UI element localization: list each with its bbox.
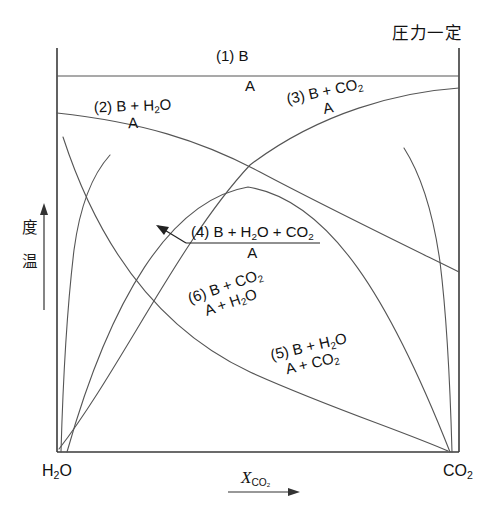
- x-axis-left-endpoint-label: H2O: [42, 462, 72, 480]
- phase-diagram-figure: 圧力一定 (1) B A (2) B + H2O A (3) B + CO2 A…: [0, 0, 500, 517]
- x-axis-variable-label: XCO2: [241, 468, 270, 487]
- region-2-number: (2): [93, 98, 112, 116]
- region-3-number: (3): [285, 87, 306, 107]
- region-1-number: (1): [216, 47, 234, 64]
- region-2-bottom: A: [92, 113, 174, 133]
- region-label-4: (4) B + H2O + CO2 A: [189, 224, 316, 262]
- x-axis-arrowhead: [288, 488, 300, 496]
- region-label-2: (2) B + H2O A: [91, 97, 174, 133]
- region-4-top: (4) B + H2O + CO2: [189, 224, 316, 241]
- region-1-top-phase: B: [239, 47, 249, 64]
- region-label-1-bottom: A: [245, 78, 255, 95]
- region-4-number: (4): [191, 223, 209, 240]
- chart-title: 圧力一定: [392, 24, 462, 42]
- y-axis-label-char-1: 度: [20, 215, 40, 237]
- y-axis-label-char-2: 温: [20, 249, 40, 271]
- y-axis-arrowhead: [40, 203, 48, 215]
- region-4-bottom: A: [189, 245, 316, 262]
- x-axis-right-endpoint-label: CO2: [443, 462, 473, 480]
- y-axis-label: 度 温: [20, 215, 40, 283]
- curve-steep-right: [404, 148, 452, 452]
- region4-arrowhead: [156, 225, 169, 235]
- region-label-1-top: (1) B: [216, 48, 249, 65]
- curve-steep-left: [61, 155, 110, 452]
